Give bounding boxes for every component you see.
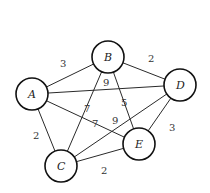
weight-A-E: 7	[92, 118, 98, 129]
weight-B-C: 7	[84, 103, 90, 114]
node-label-C: C	[57, 160, 66, 173]
node-D: D	[164, 69, 196, 101]
node-B: B	[92, 41, 124, 73]
weight-D-E: 3	[169, 122, 175, 133]
weight-C-D: 9	[112, 115, 118, 126]
node-E: E	[123, 128, 155, 160]
nodes: A B C D E	[16, 41, 196, 182]
weight-A-C: 2	[33, 130, 39, 141]
weight-B-D: 2	[148, 53, 154, 64]
node-label-E: E	[134, 138, 143, 151]
weight-B-E: 5	[121, 97, 127, 108]
weight-C-E: 2	[101, 165, 107, 176]
node-label-B: B	[103, 51, 112, 64]
weighted-graph-diagram: 3 2 9 7 5 7 9 2 3 2 A B C D E	[0, 0, 210, 193]
weight-A-D: 9	[103, 77, 109, 88]
node-C: C	[45, 150, 77, 182]
node-label-D: D	[175, 79, 185, 92]
node-A: A	[16, 78, 48, 110]
node-label-A: A	[27, 88, 36, 101]
weight-A-B: 3	[60, 58, 66, 69]
